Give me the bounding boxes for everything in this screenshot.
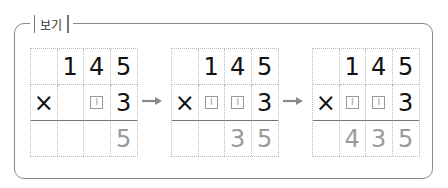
cell xyxy=(84,121,111,156)
cell xyxy=(58,121,85,156)
result-digit: 4 xyxy=(340,121,367,156)
cell: I xyxy=(340,85,367,121)
cell: 5 xyxy=(111,49,138,85)
example-label-text: 보기 xyxy=(35,16,67,33)
placeholder-box-icon: I xyxy=(205,96,218,109)
result-digit: 5 xyxy=(252,121,279,156)
cell: I xyxy=(225,85,252,121)
placeholder-box-icon: I xyxy=(372,96,385,109)
multiplication-grid-1: 1 4 5 × I 3 5 xyxy=(30,48,138,157)
cell: 4 xyxy=(225,49,252,85)
cell xyxy=(172,49,199,85)
placeholder-box-icon: I xyxy=(90,96,103,109)
cell: 5 xyxy=(252,49,279,85)
cell: I xyxy=(199,85,226,121)
cell xyxy=(199,121,226,156)
cell xyxy=(313,121,340,156)
placeholder-box-icon: I xyxy=(231,96,244,109)
cell: 1 xyxy=(58,49,85,85)
cell: 3 xyxy=(252,85,279,121)
cell: 1 xyxy=(340,49,367,85)
result-digit: 5 xyxy=(393,121,420,156)
arrow-right-icon xyxy=(142,96,162,106)
cell: 3 xyxy=(393,85,420,121)
cell xyxy=(31,49,58,85)
cell xyxy=(172,121,199,156)
multiplication-grid-2: 1 4 5 × I I 3 3 5 xyxy=(171,48,279,157)
cell: 3 xyxy=(111,85,138,121)
cell: I xyxy=(366,85,393,121)
multiplication-grid-3: 1 4 5 × I I 3 4 3 5 xyxy=(312,48,420,157)
result-digit: 5 xyxy=(111,121,138,156)
cell: 5 xyxy=(393,49,420,85)
times-sign: × xyxy=(172,85,199,121)
example-label: 보기 xyxy=(30,13,73,35)
label-bar-right xyxy=(67,15,68,33)
cell xyxy=(313,49,340,85)
times-sign: × xyxy=(31,85,58,121)
cell xyxy=(31,121,58,156)
cell: 4 xyxy=(84,49,111,85)
cell: 4 xyxy=(366,49,393,85)
cell: 1 xyxy=(199,49,226,85)
cell xyxy=(58,85,85,121)
arrow-right-icon xyxy=(283,96,303,106)
placeholder-box-icon: I xyxy=(346,96,359,109)
cell: I xyxy=(84,85,111,121)
result-digit: 3 xyxy=(225,121,252,156)
result-digit: 3 xyxy=(366,121,393,156)
times-sign: × xyxy=(313,85,340,121)
